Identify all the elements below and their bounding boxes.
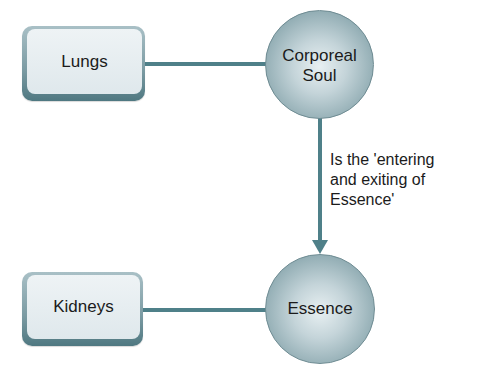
node-essence-label: Essence: [287, 299, 352, 319]
connector-kidneys-to-essence: [142, 308, 268, 312]
arrow-soul-to-essence-shaft: [318, 116, 322, 242]
node-essence: Essence: [265, 254, 375, 364]
arrow-down-icon: [312, 240, 328, 254]
node-lungs: Lungs: [22, 26, 145, 101]
diagram-canvas: Lungs Kidneys Corporeal Soul Essence Is …: [0, 0, 477, 375]
node-corporeal-soul: Corporeal Soul: [265, 10, 374, 119]
edge-label-soul-to-essence: Is the 'entering and exiting of Essence': [330, 150, 434, 210]
node-kidneys: Kidneys: [22, 272, 143, 346]
node-kidneys-label: Kidneys: [27, 275, 140, 339]
connector-lungs-to-corporeal-soul: [144, 62, 268, 66]
node-lungs-label: Lungs: [27, 29, 142, 94]
node-corporeal-soul-label: Corporeal Soul: [282, 46, 357, 86]
